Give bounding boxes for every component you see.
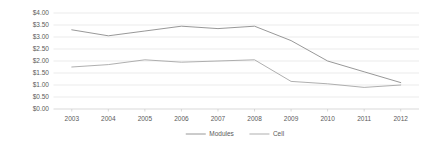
x-axis-tick-label: 2009 [284,115,299,122]
chart-canvas: $0.00$0.50$1.00$1.50$2.00$2.50$3.00$3.50… [0,0,428,148]
y-axis-tick-label: $0.50 [33,93,50,100]
y-axis-tick-label: $3.00 [33,33,50,40]
y-axis-tick-label: $2.00 [33,57,50,64]
x-axis-tick-label: 2008 [247,115,262,122]
y-axis-tick-label: $1.00 [33,81,50,88]
y-axis-tick-label: $1.50 [33,69,50,76]
x-axis-tick-label: 2011 [357,115,371,122]
x-axis-tick-label: 2007 [211,115,226,122]
x-axis-tick-label: 2004 [101,115,116,122]
x-axis-tick-label: 2012 [393,115,408,122]
legend-label-cell[interactable]: Cell [273,130,285,137]
line-chart-figure: $0.00$0.50$1.00$1.50$2.00$2.50$3.00$3.50… [0,0,428,148]
series-line-modules [72,26,401,82]
x-axis-tick-label: 2003 [65,115,80,122]
series-line-cell [72,60,401,88]
legend-label-modules[interactable]: Modules [209,130,234,137]
y-axis-tick-label: $2.50 [33,45,50,52]
x-axis-tick-label: 2005 [138,115,153,122]
x-axis-tick-label: 2006 [174,115,189,122]
y-axis-tick-label: $3.50 [33,21,50,28]
y-axis-tick-label: $4.00 [33,9,50,16]
y-axis-tick-label: $0.00 [33,105,50,112]
x-axis-tick-label: 2010 [320,115,335,122]
